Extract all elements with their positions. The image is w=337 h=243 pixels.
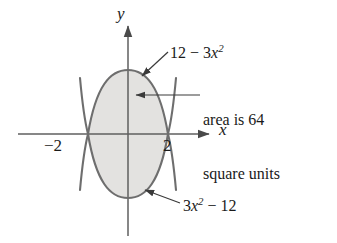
- area-annotation-line-1: area is 64: [203, 111, 280, 129]
- y-axis-label: y: [117, 4, 125, 23]
- upper-curve-equation-exponent: 2: [218, 42, 223, 54]
- x-tick-label-negative-two: −2: [44, 136, 62, 155]
- figure-canvas: [0, 0, 337, 243]
- upper-curve-leader: [142, 52, 168, 76]
- lower-curve-equation-base: 3x: [183, 197, 198, 214]
- area-annotation-line-2: square units: [203, 165, 280, 183]
- area-annotation: area is 64 square units: [203, 75, 280, 218]
- upper-curve-equation-base: 12 − 3x: [170, 44, 218, 61]
- upper-curve-equation-label: 12 − 3x2: [170, 44, 224, 62]
- x-tick-label-positive-two: 2: [163, 136, 172, 155]
- math-figure: y x −2 2 12 − 3x2 3x2 − 12 area is 64 sq…: [0, 0, 337, 243]
- lower-curve-leader: [145, 190, 180, 203]
